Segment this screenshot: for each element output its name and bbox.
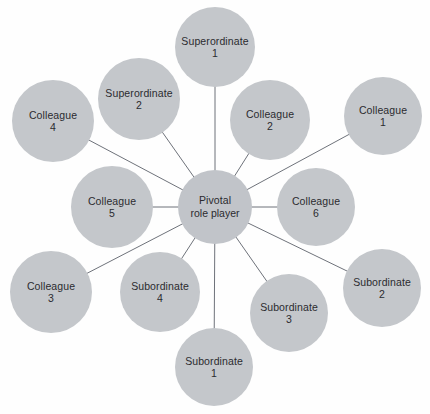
node-colleague-6-line2: 6 <box>313 207 319 220</box>
node-pivotal-line1: Pivotal <box>199 194 231 207</box>
node-superordinate-2-line2: 2 <box>136 99 142 112</box>
node-colleague-1-line2: 1 <box>380 116 386 129</box>
node-subordinate-1-line1: Subordinate <box>185 355 243 368</box>
node-superordinate-2[interactable]: Superordinate2 <box>98 58 180 140</box>
node-superordinate-1[interactable]: Superordinate1 <box>175 7 255 87</box>
node-colleague-1[interactable]: Colleague1 <box>344 77 422 155</box>
node-colleague-4-line1: Colleague <box>29 109 77 122</box>
node-colleague-2-line2: 2 <box>267 120 273 133</box>
node-subordinate-1-line2: 1 <box>211 367 217 380</box>
node-colleague-5[interactable]: Colleague5 <box>71 166 153 248</box>
node-pivotal-line2: role player <box>190 207 239 220</box>
node-subordinate-2-line1: Subordinate <box>353 276 411 289</box>
role-set-diagram: Superordinate1Superordinate2Colleague4Co… <box>0 0 430 414</box>
node-colleague-4-line2: 4 <box>50 121 56 134</box>
node-subordinate-4-line1: Subordinate <box>131 280 189 293</box>
node-colleague-3-line2: 3 <box>48 292 54 305</box>
node-colleague-1-line1: Colleague <box>359 104 407 117</box>
node-colleague-2-line1: Colleague <box>246 108 294 121</box>
node-subordinate-2[interactable]: Subordinate2 <box>343 249 421 327</box>
node-subordinate-2-line2: 2 <box>379 288 385 301</box>
node-colleague-3[interactable]: Colleague3 <box>10 251 92 333</box>
node-superordinate-2-line1: Superordinate <box>105 87 172 100</box>
node-superordinate-1-line2: 1 <box>212 47 218 60</box>
node-subordinate-3-line1: Subordinate <box>260 301 318 314</box>
node-layer: Superordinate1Superordinate2Colleague4Co… <box>0 0 430 414</box>
node-colleague-5-line2: 5 <box>109 207 115 220</box>
node-colleague-4[interactable]: Colleague4 <box>12 80 94 162</box>
node-subordinate-3-line2: 3 <box>286 313 292 326</box>
node-subordinate-1[interactable]: Subordinate1 <box>175 328 253 406</box>
node-colleague-5-line1: Colleague <box>88 195 136 208</box>
node-subordinate-4-line2: 4 <box>157 292 163 305</box>
node-subordinate-3[interactable]: Subordinate3 <box>250 274 328 352</box>
node-colleague-6[interactable]: Colleague6 <box>277 168 355 246</box>
node-colleague-2[interactable]: Colleague2 <box>230 80 310 160</box>
node-colleague-3-line1: Colleague <box>27 280 75 293</box>
node-pivotal[interactable]: Pivotalrole player <box>178 170 252 244</box>
node-colleague-6-line1: Colleague <box>292 195 340 208</box>
node-subordinate-4[interactable]: Subordinate4 <box>120 252 200 332</box>
node-superordinate-1-line1: Superordinate <box>181 35 248 48</box>
